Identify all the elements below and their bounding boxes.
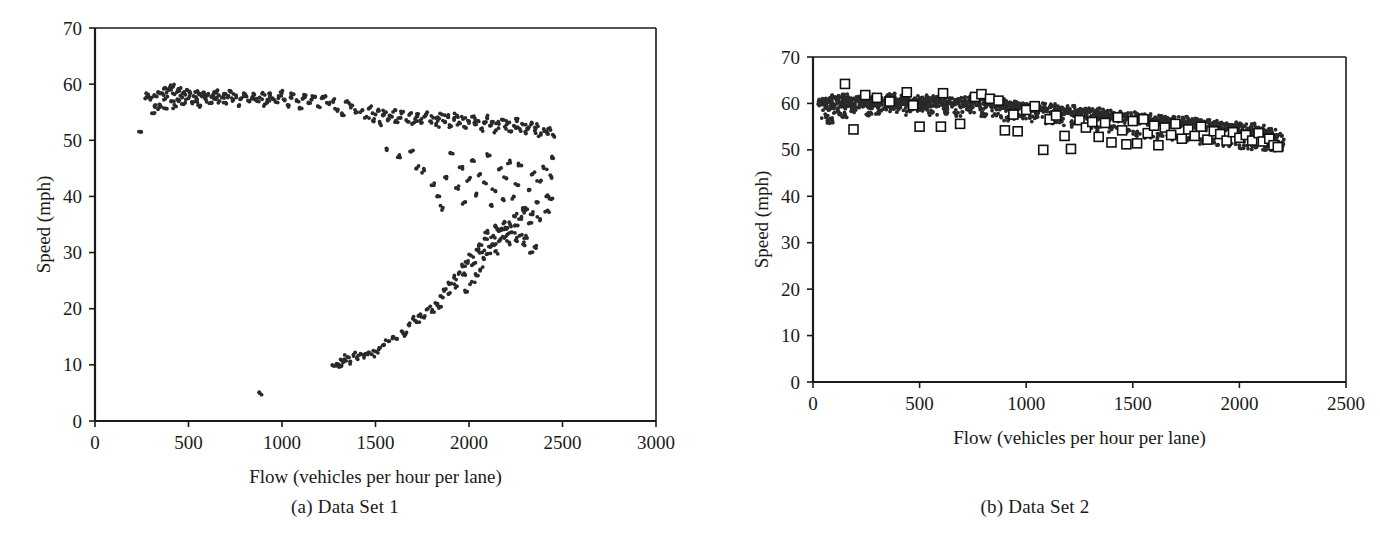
- data-point-dot: [1181, 116, 1185, 120]
- data-point-dot: [1253, 122, 1257, 126]
- data-point-dot: [902, 108, 906, 112]
- data-point-square: [1060, 131, 1069, 140]
- data-point-dot: [184, 97, 188, 101]
- data-point-dot: [495, 228, 499, 232]
- data-point-dot: [224, 101, 228, 105]
- data-point-dot: [1177, 115, 1181, 119]
- data-point-dot: [172, 103, 176, 107]
- data-point-dot: [502, 175, 506, 179]
- data-point-dot: [436, 115, 440, 119]
- data-point-dot: [502, 236, 506, 240]
- data-point-dot: [420, 315, 424, 319]
- data-point-dot: [953, 98, 957, 102]
- data-point-dot: [238, 97, 242, 101]
- x-tick-label: 500: [905, 393, 934, 414]
- data-point-dot: [457, 272, 461, 276]
- data-point-dot: [1106, 114, 1110, 118]
- data-point-dot: [959, 114, 963, 118]
- data-point-dot: [1123, 118, 1127, 122]
- data-point-dot: [216, 101, 220, 105]
- x-tick-label: 2000: [450, 432, 488, 453]
- data-point-dot: [835, 97, 839, 101]
- data-point-dot: [927, 96, 931, 100]
- data-point-dot: [318, 105, 322, 109]
- data-point-dot: [1135, 134, 1139, 138]
- data-point-dot: [524, 234, 528, 238]
- scatter-plot-a: 010203040506070050010001500200025003000F…: [0, 0, 690, 490]
- data-point-dot: [918, 101, 922, 105]
- data-point-dot: [353, 350, 357, 354]
- data-point-dot: [544, 195, 548, 199]
- data-point-dot: [362, 356, 366, 360]
- data-point-dot: [870, 112, 874, 116]
- data-point-square: [1009, 110, 1018, 119]
- data-point-dot: [832, 111, 836, 115]
- data-point-square: [1273, 143, 1282, 152]
- data-point-dot: [820, 116, 824, 120]
- data-point-dot: [509, 230, 513, 234]
- data-point-dot: [970, 105, 974, 109]
- data-point-dot: [507, 220, 511, 224]
- data-point-dot: [513, 182, 517, 186]
- data-point-dot: [534, 244, 538, 248]
- data-point-dot: [506, 162, 510, 166]
- y-tick-label: 30: [63, 242, 82, 263]
- data-point-dot: [493, 223, 497, 227]
- data-point-dot: [163, 86, 167, 90]
- x-tick-label: 0: [90, 432, 100, 453]
- data-point-dot: [488, 252, 492, 256]
- data-point-dot: [943, 110, 947, 114]
- data-point-dot: [921, 96, 925, 100]
- data-point-square: [1088, 118, 1097, 127]
- data-point-dot: [489, 235, 493, 239]
- chart-panel-b: 01020304050607005001000150020002500Flow …: [690, 0, 1380, 541]
- data-point-dot: [995, 108, 999, 112]
- data-point-square: [1107, 138, 1116, 147]
- data-point-dot: [950, 102, 954, 106]
- data-point-dot: [276, 101, 280, 105]
- data-point-dot: [371, 111, 375, 115]
- data-point-dot: [991, 114, 995, 118]
- data-point-dot: [528, 251, 532, 255]
- data-point-dot: [1095, 128, 1099, 132]
- data-point-dot: [153, 103, 157, 107]
- data-point-dot: [451, 152, 455, 156]
- data-point-dot: [443, 120, 447, 124]
- data-point-square: [936, 122, 945, 131]
- data-point-dot: [452, 282, 456, 286]
- data-point-dot: [440, 208, 444, 212]
- data-point-dot: [508, 243, 512, 247]
- x-tick-label: 1000: [1007, 393, 1045, 414]
- data-point-dot: [529, 212, 533, 216]
- data-point-dot: [550, 155, 554, 159]
- data-point-dot: [520, 233, 524, 237]
- data-point-dot: [832, 107, 836, 111]
- data-point-dot: [1021, 117, 1025, 121]
- data-point-dot: [533, 170, 537, 174]
- data-point-dot: [888, 92, 892, 96]
- data-point-dot: [1135, 130, 1139, 134]
- data-point-square: [1101, 118, 1110, 127]
- data-point-dot: [206, 93, 210, 97]
- y-tick-label: 70: [781, 47, 800, 68]
- y-tick-label: 10: [63, 354, 82, 375]
- data-point-dot: [437, 125, 441, 129]
- data-point-dot: [535, 179, 539, 183]
- data-point-dot: [1076, 110, 1080, 114]
- y-axis-ticks: 010203040506070: [63, 18, 95, 432]
- data-point-dot: [474, 122, 478, 126]
- y-tick-label: 40: [63, 186, 82, 207]
- y-tick-label: 50: [63, 130, 82, 151]
- data-point-dot: [538, 219, 542, 223]
- data-point-dot: [428, 304, 432, 308]
- data-point-dot: [525, 207, 529, 211]
- panel-a-caption: (a) Data Set 1: [0, 496, 690, 518]
- data-point-square: [1139, 115, 1148, 124]
- data-point-dot: [546, 127, 550, 131]
- data-point-dot: [496, 252, 500, 256]
- data-point-dot: [384, 338, 388, 342]
- data-point-dot: [377, 109, 381, 113]
- data-point-dot: [183, 101, 187, 105]
- data-point-dot: [843, 110, 847, 114]
- data-point-dot: [389, 114, 393, 118]
